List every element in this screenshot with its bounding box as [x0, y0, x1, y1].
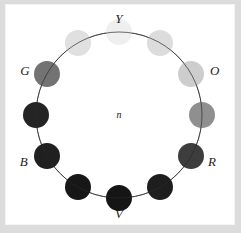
hue-circle-figure: YORVBG n — [0, 0, 241, 233]
hue-label-v: V — [115, 207, 123, 220]
hue-label-b: B — [20, 155, 28, 168]
center-annotation-label: n — [117, 110, 122, 120]
hue-label-o: O — [210, 64, 220, 77]
hue-label-r: R — [208, 155, 216, 168]
hue-label-g: G — [20, 64, 30, 77]
hue-label-y: Y — [115, 12, 123, 25]
